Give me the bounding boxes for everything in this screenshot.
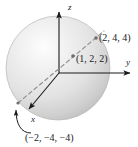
sphere-body bbox=[6, 16, 110, 120]
z-axis-label: z bbox=[68, 3, 72, 12]
point-label-122: (1, 2, 2) bbox=[76, 54, 108, 64]
point-marker-122 bbox=[71, 54, 75, 58]
point-marker-neg244 bbox=[16, 101, 19, 104]
callout-arrow-path bbox=[16, 110, 31, 133]
point-label-neg244: (−2, −4, −4) bbox=[25, 133, 74, 143]
point-marker-244 bbox=[94, 36, 98, 40]
y-axis-label: y bbox=[126, 58, 130, 67]
diagram-canvas bbox=[0, 0, 138, 147]
x-axis-label: x bbox=[31, 115, 35, 124]
point-label-244: (2, 4, 4) bbox=[99, 33, 131, 43]
sphere-diagram-figure: z y x (2, 4, 4) (1, 2, 2) (−2, −4, −4) bbox=[0, 0, 138, 147]
